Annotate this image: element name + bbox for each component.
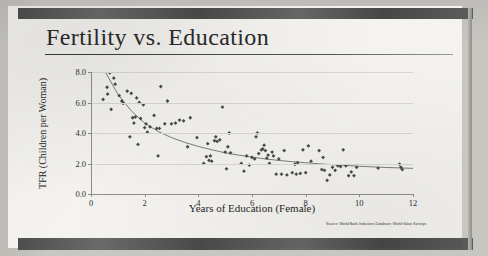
- data-point: [186, 145, 190, 149]
- data-point: [112, 76, 116, 80]
- data-point: [349, 170, 353, 174]
- y-axis-title-label: TFR (Children per Woman): [37, 78, 48, 189]
- data-point: [204, 155, 208, 159]
- y-tick-label: 2.0: [75, 159, 86, 169]
- data-point: [341, 148, 345, 152]
- slide-right-edge: [468, 8, 472, 250]
- data-point: [174, 121, 178, 125]
- data-point: [159, 85, 163, 89]
- data-point: [221, 105, 225, 109]
- data-point: [143, 126, 147, 130]
- data-point: [304, 171, 308, 175]
- gridline: [91, 103, 413, 104]
- data-point: [136, 143, 140, 147]
- data-point: [321, 156, 325, 160]
- data-point: [139, 117, 143, 121]
- data-point: [323, 168, 327, 172]
- data-point: [101, 98, 105, 102]
- data-point: [135, 96, 139, 100]
- y-tick-label: 0.0: [75, 189, 86, 199]
- data-point: [195, 136, 199, 140]
- data-point: [209, 154, 213, 158]
- y-tick-label: 8.0: [75, 67, 86, 77]
- data-point: [158, 127, 162, 131]
- gridline: [91, 164, 413, 165]
- data-point: [294, 172, 298, 176]
- data-point: [245, 154, 249, 158]
- data-point: [163, 122, 167, 126]
- data-point: [105, 85, 109, 89]
- scatter-chart: TFR (Children per Woman) 0.02.04.06.08.0…: [40, 62, 432, 212]
- data-point: [347, 174, 351, 178]
- data-point: [270, 150, 274, 154]
- data-point: [225, 167, 229, 171]
- x-tick: [306, 194, 307, 197]
- x-axis-title: Years of Education (Female): [91, 202, 413, 214]
- data-point: [132, 121, 136, 125]
- data-point: [131, 116, 135, 120]
- y-axis-title: TFR (Children per Woman): [36, 72, 48, 194]
- data-point: [182, 119, 186, 123]
- data-point: [213, 139, 217, 143]
- data-point: [226, 145, 230, 149]
- data-point: [152, 114, 156, 118]
- data-point: [301, 148, 305, 152]
- data-point: [328, 173, 332, 177]
- data-point: [188, 116, 192, 120]
- x-tick: [198, 194, 199, 197]
- data-point: [129, 91, 133, 95]
- x-tick: [252, 194, 253, 197]
- data-point: [272, 154, 276, 158]
- x-tick: [145, 194, 146, 197]
- x-tick: [413, 194, 414, 197]
- data-point: [156, 154, 160, 158]
- data-point: [317, 149, 321, 153]
- data-point: [352, 174, 356, 178]
- y-tick: [88, 133, 92, 134]
- data-point: [178, 118, 182, 122]
- data-point: [320, 168, 324, 172]
- data-point: [254, 135, 258, 139]
- data-point: [170, 122, 174, 126]
- gridline: [91, 133, 413, 134]
- data-point: [290, 171, 294, 175]
- y-tick-label: 6.0: [75, 98, 86, 108]
- y-tick: [88, 164, 92, 165]
- slide-bottom-band: [18, 238, 473, 250]
- data-point: [242, 169, 246, 173]
- title-underline: [45, 54, 453, 55]
- y-tick-label: 4.0: [75, 128, 86, 138]
- slide-page: Fertility vs. Education TFR (Children pe…: [8, 6, 462, 248]
- data-point: [298, 172, 302, 176]
- x-tick: [91, 194, 92, 197]
- data-point: [285, 173, 289, 177]
- data-point: [206, 142, 210, 146]
- data-point: [214, 135, 218, 139]
- data-point: [257, 152, 261, 156]
- data-point: [306, 144, 310, 148]
- data-point: [280, 172, 284, 176]
- data-point: [207, 159, 211, 163]
- slide-top-band: [18, 8, 473, 19]
- y-tick: [88, 72, 92, 73]
- data-point: [128, 135, 132, 139]
- plot-area: 0.02.04.06.08.0024681012: [91, 72, 413, 194]
- y-tick: [88, 103, 92, 104]
- data-point: [331, 165, 335, 169]
- data-point: [274, 172, 278, 176]
- source-note: Source: World Bank Indicators Database; …: [326, 222, 458, 228]
- data-point: [282, 149, 286, 153]
- data-point: [325, 178, 329, 182]
- data-point: [125, 89, 129, 93]
- data-point: [333, 168, 337, 172]
- data-point: [106, 92, 110, 96]
- data-point: [109, 107, 113, 111]
- gridline: [91, 72, 413, 73]
- x-tick: [359, 194, 360, 197]
- data-point: [262, 143, 266, 147]
- data-point: [113, 82, 117, 86]
- page-title: Fertility vs. Education: [46, 24, 269, 51]
